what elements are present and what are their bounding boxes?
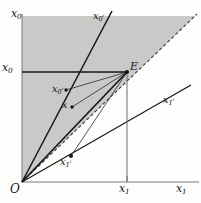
point-x-marker: [70, 105, 73, 108]
axis-tick-label-x0: x0: [2, 62, 13, 74]
point-E-marker: [125, 70, 129, 74]
point-label-x0-prime: x0': [52, 84, 63, 95]
point-label-x1-prime: x1': [60, 157, 71, 168]
axis-tick-label-x1: x1: [119, 183, 130, 195]
ray-label-x0-prime-upper: x0': [93, 11, 104, 22]
point-x0-prime-marker: [64, 88, 67, 91]
axis-label-x1-right: x1: [176, 183, 187, 195]
figure-container: x0 x0 x0' x0' E x x1' x1' O x1 x1: [0, 0, 201, 203]
point-label-E: E: [130, 61, 138, 72]
point-label-x: x: [62, 100, 67, 110]
origin-label: O: [10, 183, 20, 195]
axis-label-x0-top: x0: [11, 8, 22, 20]
ray-label-x1-prime-right: x1': [163, 95, 174, 106]
